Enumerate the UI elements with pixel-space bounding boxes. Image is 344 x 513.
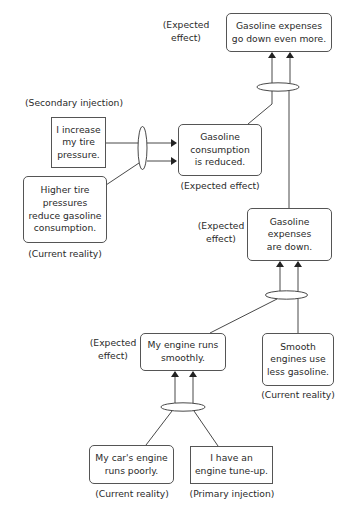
tag-expected-effect-engine: (Expected effect) — [88, 337, 138, 362]
and-ellipse-middle — [266, 291, 308, 299]
node-text: Smooth engines use less gasoline. — [267, 341, 329, 379]
tag-current-reality-engine: (Current reality) — [86, 488, 178, 501]
and-ellipse-left — [138, 127, 147, 170]
node-increase-tire-pressure: I increase my tire pressure. — [51, 117, 106, 168]
future-reality-tree-diagram: Gasoline expenses go down even more. (Ex… — [0, 0, 344, 513]
node-text: Gasoline expenses go down even more. — [232, 20, 326, 45]
node-text: My car's engine runs poorly. — [95, 452, 167, 477]
tag-primary-injection: (Primary injection) — [184, 488, 280, 501]
line-poorly-to-and — [146, 411, 172, 445]
node-higher-tire-pressures: Higher tire pressures reduce gasoline co… — [23, 176, 107, 243]
node-smooth-engines: Smooth engines use less gasoline. — [262, 333, 334, 386]
node-engine-tune-up: I have an engine tune-up. — [190, 446, 273, 484]
line-consumption-to-top-and — [248, 91, 272, 124]
tag-expected-effect-consumption: (Expected effect) — [180, 180, 260, 193]
node-expenses-down: Gasoline expenses are down. — [247, 208, 332, 261]
and-ellipse-bottom — [161, 403, 205, 411]
and-ellipse-top — [257, 83, 299, 91]
node-consumption-reduced: Gasoline consumption is reduced. — [178, 124, 262, 176]
tag-secondary-injection: (Secondary injection) — [24, 97, 124, 110]
node-text: Gasoline expenses are down. — [267, 216, 313, 254]
node-text: My engine runs smoothly. — [148, 339, 219, 364]
node-text: Gasoline consumption is reduced. — [190, 131, 250, 169]
tag-expected-effect-top: (Expected effect) — [148, 19, 224, 44]
node-text: I increase my tire pressure. — [56, 124, 100, 162]
node-text: Higher tire pressures reduce gasoline co… — [29, 184, 102, 234]
line-higher-to-and — [106, 163, 139, 185]
tag-current-reality-tires: (Current reality) — [20, 248, 110, 261]
tag-current-reality-smooth: (Current reality) — [254, 389, 342, 402]
node-engine-runs-smoothly: My engine runs smoothly. — [140, 333, 226, 371]
tag-expected-effect-expenses: (Expected effect) — [196, 220, 246, 245]
line-tuneup-to-and — [194, 411, 218, 446]
node-expenses-down-more: Gasoline expenses go down even more. — [226, 13, 332, 52]
node-text: I have an engine tune-up. — [195, 452, 268, 477]
node-engine-runs-poorly: My car's engine runs poorly. — [89, 445, 174, 484]
line-engine-smooth-to-and — [210, 299, 277, 333]
